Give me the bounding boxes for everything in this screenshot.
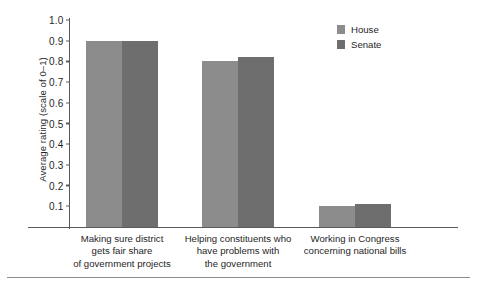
category-label-line: concerning national bills — [275, 245, 435, 257]
bar-group — [202, 20, 274, 227]
y-axis-tick-mark — [66, 123, 70, 124]
footer-divider — [7, 277, 470, 278]
y-axis-tick-label: 0.3 — [49, 159, 64, 170]
legend-item-senate[interactable]: Senate — [337, 37, 381, 52]
x-axis-line — [28, 227, 458, 228]
y-axis-tick-label: 0.5 — [49, 118, 64, 129]
y-axis-tick: 0.2 — [49, 180, 70, 191]
bar-house[interactable] — [202, 61, 238, 227]
bar-senate[interactable] — [355, 204, 391, 227]
y-axis-tick-label: 1.0 — [49, 15, 64, 26]
y-axis-tick-label: 0.7 — [49, 77, 64, 88]
y-axis-tick: 0.4 — [49, 139, 70, 150]
y-axis-tick: 0.1 — [49, 201, 70, 212]
y-axis-tick: 0.8 — [49, 56, 70, 67]
y-axis-tick-mark — [66, 40, 70, 41]
y-axis-tick-label: 0.1 — [49, 201, 64, 212]
y-axis-tick-mark — [66, 19, 70, 20]
y-axis-tick: 0.9 — [49, 35, 70, 46]
chart-legend: House Senate — [337, 22, 381, 52]
bar-senate[interactable] — [238, 57, 274, 227]
y-axis-tick: 0.3 — [49, 159, 70, 170]
y-axis-tick-mark — [66, 206, 70, 207]
legend-label-house: House — [351, 24, 379, 35]
bar-senate[interactable] — [122, 41, 158, 227]
y-axis-tick-label: 0.2 — [49, 180, 64, 191]
legend-swatch-house-icon — [337, 25, 345, 34]
y-axis-tick: 0.6 — [49, 97, 70, 108]
legend-label-senate: Senate — [351, 39, 381, 50]
y-axis-tick-mark — [66, 102, 70, 103]
y-axis-tick-mark — [66, 164, 70, 165]
y-axis-tick: 0.5 — [49, 118, 70, 129]
y-axis-tick: 1.0 — [49, 15, 70, 26]
y-axis-tick-mark — [66, 185, 70, 186]
y-axis-tick-mark — [66, 81, 70, 82]
bar-house[interactable] — [86, 41, 122, 227]
category-label-line: Working in Congress — [275, 233, 435, 245]
y-axis-tick-label: 0.6 — [49, 97, 64, 108]
y-axis-tick-mark — [66, 144, 70, 145]
y-axis-tick-mark — [66, 61, 70, 62]
y-axis-tick-label: 0.4 — [49, 139, 64, 150]
bar-chart-figure: Average rating (scale of 0–1) 1.00.90.80… — [0, 0, 477, 291]
legend-swatch-senate-icon — [337, 40, 345, 49]
category-label: Working in Congressconcerning national b… — [275, 233, 435, 258]
category-label-line: the government — [158, 258, 318, 270]
y-axis-title: Average rating (scale of 0–1) — [37, 15, 48, 225]
y-axis-tick-label: 0.9 — [49, 35, 64, 46]
y-axis-tick: 0.7 — [49, 77, 70, 88]
legend-item-house[interactable]: House — [337, 22, 381, 37]
y-axis-tick-label: 0.8 — [49, 56, 64, 67]
bar-house[interactable] — [319, 206, 355, 227]
bar-group — [86, 20, 158, 227]
